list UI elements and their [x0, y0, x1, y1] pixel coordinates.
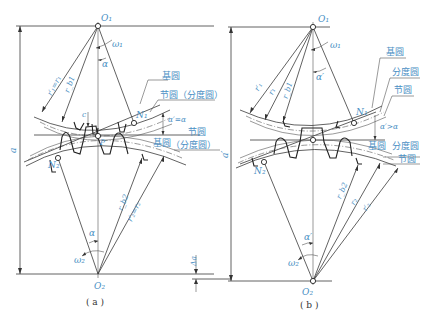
label-r1: r₁: [266, 87, 277, 97]
label-ref-circle-top: 分度圆: [392, 66, 419, 77]
label-n1: N₁: [135, 110, 147, 120]
label-pressure-angle: α′=α: [168, 115, 186, 124]
label-n2: N₂: [47, 160, 60, 170]
label-pitch-circle-bottom: 节圆: [398, 154, 416, 164]
gear-tooth: [356, 158, 362, 164]
label-r2: r₂: [348, 197, 359, 207]
label-omega1: ω₁: [330, 40, 341, 50]
base-circle-arc-top: [34, 110, 170, 130]
label-rb2: r_b2: [334, 181, 349, 200]
label-base-circle-bottom: 基圆: [153, 137, 171, 148]
label-pitch-circle-bottom: 节圆: [188, 127, 206, 137]
tangent-point-n2: [261, 159, 266, 164]
center-point-o2: [310, 278, 315, 283]
arrow-icon: [62, 116, 65, 122]
label-base-circle-bottom: 基圆: [368, 140, 386, 151]
label-pitch-circle-top: 节圆: [394, 85, 412, 95]
label-pressure-angle: α′>α: [380, 122, 398, 131]
tangent-point-n1: [131, 120, 136, 125]
arrow-down-icon: [229, 275, 233, 281]
tangent-point-n1: [351, 120, 356, 125]
pitch-circle-arc-top: [250, 117, 386, 136]
label-base-circle-top: 基圆: [162, 70, 180, 81]
label-alpha-top: α′: [316, 72, 324, 82]
label-omega2: ω₂: [288, 258, 299, 268]
label-o1: O₁: [101, 13, 112, 23]
arrow-up-icon: [18, 26, 22, 32]
label-n1: N₁: [355, 107, 367, 117]
label-alpha-bottom: α: [89, 228, 95, 238]
gear-center-distance-diagram: a Δa: [0, 0, 430, 319]
label-rb2: r_b2: [116, 193, 131, 212]
label-r2-pitch: r′₂=r₂: [125, 200, 142, 223]
label-alpha-bottom: α′: [304, 232, 312, 242]
label-r1-pitch: r′₁=r₁: [45, 74, 63, 97]
center-distance-label: a: [8, 148, 18, 153]
gear-tooth: [74, 122, 84, 130]
caption-a: ( a ): [86, 297, 104, 307]
arrow-icon: [161, 156, 164, 162]
caption-b: ( b ): [300, 300, 319, 310]
panel-a: a Δa: [8, 13, 232, 307]
label-r2-prime: r′₂: [360, 201, 372, 213]
delta-a-label: Δa: [189, 256, 198, 267]
label-r1-prime: r′₁: [252, 81, 264, 93]
pitch-point: [310, 137, 315, 142]
label-omega1: ω₁: [112, 39, 123, 49]
label-n2: N₂: [253, 166, 266, 176]
label-base-circle-top: 基圆: [386, 46, 404, 57]
arrow-up-icon: [194, 279, 198, 284]
label-o2: O₂: [302, 287, 313, 297]
arrow-up-icon: [229, 27, 233, 33]
label-ref-circle-bottom: （分度圆）: [171, 139, 216, 150]
label-o2: O₂: [94, 281, 105, 291]
panel-b: a′: [220, 14, 420, 310]
center-point-o1: [310, 24, 315, 29]
label-omega2: ω₂: [74, 255, 85, 265]
arrow-down-icon: [18, 268, 22, 274]
label-p: P: [99, 138, 106, 147]
gear-tooth: [142, 154, 148, 160]
label-ref-circle-bottom: 分度圆: [392, 140, 419, 151]
arrow-icon: [139, 158, 142, 164]
line-of-action: [240, 112, 376, 164]
center-point-o1: [95, 23, 100, 28]
label-alpha-top: α: [102, 59, 108, 69]
label-pitch-circle-top: 节圆（分度圆）: [160, 89, 223, 100]
label-o1: O₁: [318, 14, 329, 24]
clearance-label: c: [82, 110, 87, 119]
pitch-circle-arc-top: [40, 118, 170, 136]
label-rb1: r_b1: [281, 81, 295, 100]
center-distance-label: a′: [220, 151, 230, 158]
arrow-down-icon: [194, 269, 198, 274]
